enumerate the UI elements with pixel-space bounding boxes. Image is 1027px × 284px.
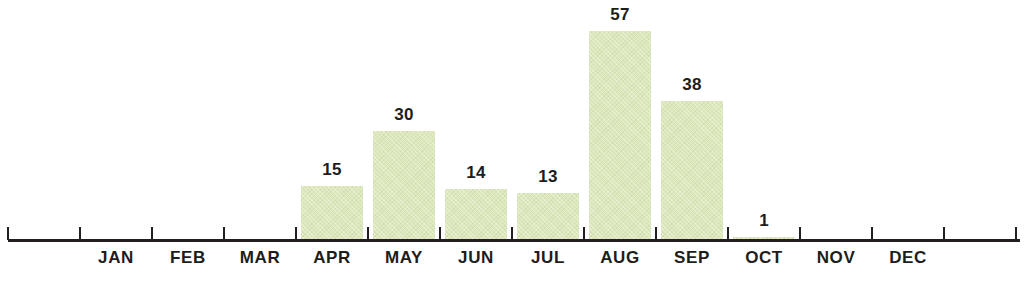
month-label-jun: JUN	[458, 249, 494, 268]
axis-tick	[367, 227, 369, 240]
axis-tick	[871, 227, 873, 240]
bar-jul[interactable]	[517, 193, 579, 241]
axis-tick	[295, 227, 297, 240]
bar-column[interactable]	[872, 2, 944, 241]
bar-jun[interactable]	[445, 189, 507, 241]
bar-value-label: 15	[322, 161, 341, 178]
bar-value-label: 1	[759, 212, 769, 229]
bar-column[interactable]: 14	[440, 2, 512, 241]
month-label-may: MAY	[385, 249, 423, 268]
bar-column[interactable]	[800, 2, 872, 241]
bar-apr[interactable]	[301, 186, 363, 241]
bar-column[interactable]: 38	[656, 2, 728, 241]
month-label-oct: OCT	[745, 249, 783, 268]
axis-tick	[1015, 227, 1017, 240]
axis-tick	[655, 227, 657, 240]
axis-tick	[727, 227, 729, 240]
month-label-jul: JUL	[531, 249, 565, 268]
axis-tick	[943, 227, 945, 240]
bar-column[interactable]	[152, 2, 224, 241]
bar-value-label: 13	[538, 168, 557, 185]
bar-value-label: 14	[466, 164, 485, 181]
month-label-dec: DEC	[889, 249, 927, 268]
bar-chart: 1530141357381 JANFEBMARAPRMAYJUNJULAUGSE…	[0, 0, 1027, 284]
plot-area: 1530141357381	[0, 0, 1027, 241]
axis-tick	[79, 227, 81, 240]
bar-sep[interactable]	[661, 101, 723, 241]
month-label-jan: JAN	[98, 249, 134, 268]
bar-value-label: 38	[682, 76, 701, 93]
axis-tick	[223, 227, 225, 240]
month-label-aug: AUG	[600, 249, 640, 268]
axis-tick	[439, 227, 441, 240]
bar-column[interactable]: 30	[368, 2, 440, 241]
axis-tick	[151, 227, 153, 240]
axis-tick	[511, 227, 513, 240]
x-axis-labels: JANFEBMARAPRMAYJUNJULAUGSEPOCTNOVDEC	[0, 249, 1027, 279]
month-label-nov: NOV	[817, 249, 856, 268]
month-label-mar: MAR	[240, 249, 281, 268]
axis-tick	[7, 227, 9, 240]
axis-tick	[799, 227, 801, 240]
bar-aug[interactable]	[589, 31, 651, 241]
bar-column[interactable]: 15	[296, 2, 368, 241]
x-axis-line	[8, 239, 1020, 242]
bar-value-label: 30	[394, 106, 413, 123]
month-label-feb: FEB	[170, 249, 206, 268]
bar-column[interactable]	[224, 2, 296, 241]
month-label-apr: APR	[313, 249, 351, 268]
bar-value-label: 57	[610, 6, 629, 23]
bar-column[interactable]: 1	[728, 2, 800, 241]
month-label-sep: SEP	[674, 249, 710, 268]
bar-column[interactable]: 57	[584, 2, 656, 241]
bar-column[interactable]	[80, 2, 152, 241]
axis-tick	[583, 227, 585, 240]
bar-may[interactable]	[373, 131, 435, 241]
bar-column[interactable]: 13	[512, 2, 584, 241]
